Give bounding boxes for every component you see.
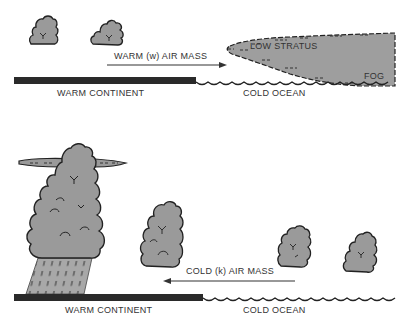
warm-continent-label: WARM CONTINENT bbox=[57, 88, 144, 98]
cumulus-cloud-icon bbox=[278, 226, 311, 267]
warm-continent-label: WARM CONTINENT bbox=[65, 305, 152, 315]
arrow-left-icon bbox=[163, 278, 171, 284]
fog-label: FOG bbox=[364, 71, 384, 81]
cumulus-cloud-icon bbox=[343, 232, 376, 272]
ocean-waves bbox=[203, 298, 395, 301]
cold-ocean-label: COLD OCEAN bbox=[243, 88, 306, 98]
cumulus-cloud-icon bbox=[30, 16, 58, 44]
cold-ocean-label: COLD OCEAN bbox=[243, 305, 306, 315]
warm-continent-land bbox=[14, 77, 196, 84]
cumulus-cloud-icon bbox=[141, 202, 183, 267]
cold-air-mass-label: COLD (k) AIR MASS bbox=[186, 266, 274, 276]
bottom-panel bbox=[14, 144, 395, 301]
cumulus-cloud-icon bbox=[91, 20, 123, 45]
arrow-right-icon bbox=[219, 62, 227, 68]
diagram-canvas bbox=[0, 0, 415, 329]
low-stratus-label: LOW STRATUS bbox=[250, 41, 318, 51]
warm-air-mass-label: WARM (w) AIR MASS bbox=[114, 51, 207, 61]
rain-shaft bbox=[26, 258, 92, 294]
warm-continent-land bbox=[14, 294, 203, 301]
